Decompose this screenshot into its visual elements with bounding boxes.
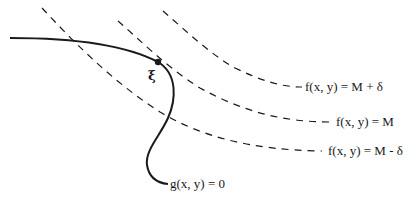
label-m-minus-delta: f(x, y) = M - δ (328, 143, 403, 158)
label-m-plus-delta: f(x, y) = M + δ (305, 79, 383, 94)
constraint-curve (10, 38, 174, 184)
level-curve-m-minus-delta (42, 8, 322, 151)
tangent-point (155, 59, 161, 65)
lagrange-multiplier-diagram: ξ f(x, y) = M + δ f(x, y) = M f(x, y) = … (0, 0, 419, 200)
label-m: f(x, y) = M (336, 114, 394, 129)
level-curve-m-plus-delta (163, 11, 302, 87)
point-label-xi: ξ (148, 68, 156, 83)
label-constraint: g(x, y) = 0 (170, 176, 225, 191)
